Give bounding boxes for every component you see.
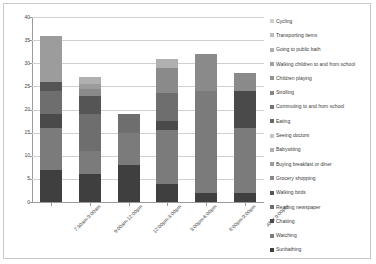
- bar-segment[interactable]: [156, 184, 178, 203]
- legend-item[interactable]: Children playing: [270, 71, 372, 85]
- bar-segment[interactable]: [40, 170, 62, 202]
- legend-item[interactable]: Walking children to and from school: [270, 57, 372, 71]
- chart-frame: 0510152025303540 7:30am-9:00am9:00am-12:…: [3, 3, 371, 259]
- legend-item[interactable]: Walking birds: [270, 186, 372, 200]
- legend-item[interactable]: Buying breakfast or diner: [270, 157, 372, 171]
- bar-segment[interactable]: [195, 193, 217, 202]
- legend-swatch-icon: [270, 91, 274, 95]
- bar-segment[interactable]: [79, 77, 101, 84]
- legend-swatch-icon: [270, 191, 274, 195]
- legend-item[interactable]: Chatting: [270, 214, 372, 228]
- x-axis-tick-label: 7:30am-9:00am: [74, 204, 102, 232]
- bar-segment[interactable]: [195, 91, 217, 193]
- x-axis-tick-label: 3:00pm-6:00pm: [190, 204, 218, 232]
- y-axis-tick-label: 10: [8, 153, 30, 158]
- x-axis: 7:30am-9:00am9:00am-12:00pm12:00pm-3:00p…: [32, 204, 264, 260]
- gridline: [32, 63, 264, 64]
- gridline: [32, 40, 264, 41]
- legend-swatch-icon: [270, 234, 274, 238]
- legend-swatch-icon: [270, 119, 274, 123]
- legend-item-label: Seeing doctors: [276, 133, 309, 138]
- bar-segment[interactable]: [156, 59, 178, 68]
- legend-item[interactable]: Eating: [270, 114, 372, 128]
- bar-segment[interactable]: [234, 193, 256, 202]
- bar-column[interactable]: [79, 77, 101, 202]
- legend-swatch-icon: [270, 76, 274, 80]
- bar-segment[interactable]: [156, 93, 178, 121]
- legend-item-label: Strolling: [276, 90, 294, 95]
- bar-column[interactable]: [118, 114, 140, 202]
- legend-item[interactable]: Sunbathing: [270, 243, 372, 257]
- legend-swatch-icon: [270, 105, 274, 109]
- bar-segment[interactable]: [40, 128, 62, 170]
- bar-segment[interactable]: [156, 130, 178, 183]
- legend-item[interactable]: Reading newspaper: [270, 200, 372, 214]
- gridline: [32, 110, 264, 111]
- bar-column[interactable]: [234, 73, 256, 203]
- y-axis: 0510152025303540: [4, 17, 30, 203]
- bar-column[interactable]: [40, 36, 62, 203]
- plot-area: [32, 17, 264, 203]
- bar-segment[interactable]: [234, 128, 256, 193]
- bar-segment[interactable]: [195, 54, 217, 91]
- bar-segment[interactable]: [79, 96, 101, 115]
- y-axis-tick-label: 35: [8, 38, 30, 43]
- y-axis-tick-label: 5: [8, 176, 30, 181]
- bar-segment[interactable]: [79, 151, 101, 174]
- gridline: [32, 17, 264, 18]
- legend-item[interactable]: Going to public bath: [270, 43, 372, 57]
- legend-swatch-icon: [270, 248, 274, 252]
- legend-item[interactable]: Commuting to and from school: [270, 100, 372, 114]
- bar-segment[interactable]: [40, 91, 62, 114]
- legend-item[interactable]: Transporting items: [270, 28, 372, 42]
- y-axis-tick-label: 25: [8, 84, 30, 89]
- legend-swatch-icon: [270, 48, 274, 52]
- legend-item[interactable]: Cycling: [270, 14, 372, 28]
- bar-segment[interactable]: [79, 174, 101, 202]
- legend-item-label: Chatting: [276, 219, 295, 224]
- legend-item-label: Going to public bath: [276, 47, 320, 52]
- legend-item[interactable]: Strolling: [270, 85, 372, 99]
- bar-column[interactable]: [195, 54, 217, 202]
- legend-item[interactable]: Babysitting: [270, 143, 372, 157]
- bar-segment[interactable]: [79, 114, 101, 151]
- bar-segment[interactable]: [118, 133, 140, 165]
- bar-segment[interactable]: [40, 36, 62, 82]
- bar-segment[interactable]: [118, 114, 140, 133]
- y-axis-tick-label: 40: [8, 15, 30, 20]
- legend-item[interactable]: Watching: [270, 228, 372, 242]
- legend-item[interactable]: Grocery shopping: [270, 171, 372, 185]
- legend-item[interactable]: Seeing doctors: [270, 128, 372, 142]
- legend-swatch-icon: [270, 176, 274, 180]
- y-axis-tick-label: 20: [8, 107, 30, 112]
- bar-segment[interactable]: [156, 121, 178, 130]
- legend-item-label: Commuting to and from school: [276, 104, 344, 109]
- bar-segment[interactable]: [40, 114, 62, 128]
- legend-swatch-icon: [270, 162, 274, 166]
- legend-item-label: Transporting items: [276, 33, 317, 38]
- y-axis-tick-label: 15: [8, 130, 30, 135]
- bar-segment[interactable]: [234, 73, 256, 92]
- legend-swatch-icon: [270, 219, 274, 223]
- x-axis-tick-label: 9:00am-12:00pm: [113, 204, 143, 234]
- legend-swatch-icon: [270, 148, 274, 152]
- gridline: [32, 156, 264, 157]
- legend-item-label: Watching: [276, 233, 297, 238]
- legend-item-label: Cycling: [276, 19, 292, 24]
- bar-column[interactable]: [156, 59, 178, 202]
- legend-item-label: Children playing: [276, 76, 312, 81]
- legend-swatch-icon: [270, 134, 274, 138]
- bar-segment[interactable]: [234, 91, 256, 128]
- legend-item-label: Sunbathing: [276, 247, 301, 252]
- bar-segment[interactable]: [156, 68, 178, 93]
- y-axis-tick-label: 0: [8, 200, 30, 205]
- legend-swatch-icon: [270, 205, 274, 209]
- bar-segment[interactable]: [118, 165, 140, 202]
- legend-swatch-icon: [270, 33, 274, 37]
- gridline: [32, 179, 264, 180]
- legend-item-label: Reading newspaper: [276, 205, 320, 210]
- legend-item-label: Babysitting: [276, 147, 300, 152]
- x-axis-tick-label: 6:00pm-9:00pm: [228, 204, 256, 232]
- bar-segment[interactable]: [79, 89, 101, 96]
- bar-segment[interactable]: [40, 82, 62, 91]
